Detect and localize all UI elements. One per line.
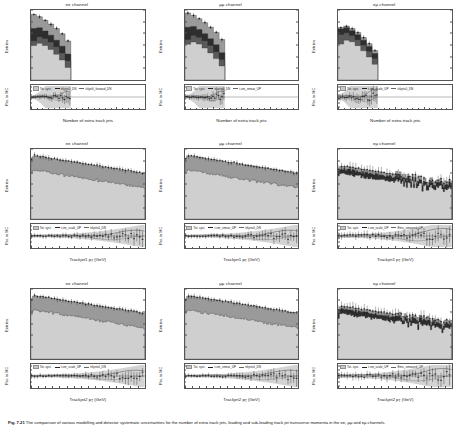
legend-item-variation: t-sm_smear_UP	[233, 87, 261, 91]
y-tick-mark	[185, 323, 187, 324]
y-tick-mark	[143, 323, 145, 324]
ratio-y-tick-mark	[185, 381, 186, 382]
ratio-y-tick-mark	[185, 230, 186, 231]
x-tick-mark-minor	[361, 108, 362, 109]
x-axis-label-text: Trackjet1 p	[223, 257, 245, 262]
legend-label-variation: t-sm_smear_UP	[214, 365, 236, 369]
y-tick-mark	[143, 172, 145, 173]
y-tick-mark	[338, 21, 340, 22]
y-tick-mark	[185, 56, 187, 57]
legend-label-variation: t-sm_smear_UP	[214, 226, 236, 230]
y-tick-mark	[338, 33, 340, 34]
ratio-legend: Tot. syst.t-sm_smear_UPtrkjets0_DN	[186, 365, 297, 370]
x-axis-label-text: Trackjet2 p	[70, 397, 92, 402]
x-tick-mark-minor	[284, 247, 285, 248]
y-tick-mark	[296, 68, 298, 69]
x-tick-mark-minor	[291, 386, 292, 387]
legend-item-variation: trkjets0_DN	[84, 226, 106, 230]
ratio-y-tick-mark	[31, 99, 32, 100]
y-tick-mark	[450, 207, 452, 208]
y-tick-mark	[143, 311, 145, 312]
x-tick-mark-minor	[31, 247, 32, 248]
ratio-point	[355, 233, 357, 241]
x-tick-mark-minor	[95, 247, 96, 248]
x-tick-mark-minor	[353, 247, 354, 248]
x-axis-label-unit: (GeV)	[93, 257, 106, 262]
x-tick-mark-minor	[367, 247, 368, 248]
y-tick-mark	[185, 160, 187, 161]
ratio-y-tick-mark	[185, 99, 186, 100]
y-tick-mark	[31, 311, 33, 312]
y-tick-mark	[31, 195, 33, 196]
legend-label-variation: trkjets0_DN	[61, 87, 77, 91]
x-tick-mark-minor	[202, 108, 203, 109]
y-tick-mark	[31, 207, 33, 208]
ratio-y-tick-mark	[185, 226, 186, 227]
ratio-y-tick-mark	[185, 91, 186, 92]
x-tick-mark-minor	[220, 386, 221, 387]
legend-label-variation: t-sm_scale_UP	[61, 365, 81, 369]
x-tick-mark-minor	[277, 247, 278, 248]
panel-title-text: ee channel	[66, 2, 88, 7]
plot-cell-njets-emu: eμ channelEntriesRat. to MC1011021031041…	[307, 0, 461, 139]
y-tick-mark	[185, 184, 187, 185]
y-tick-mark	[185, 346, 187, 347]
y-tick-mark	[143, 149, 145, 150]
histogram-pt1-mumu	[185, 149, 299, 219]
legend-swatch-line	[208, 227, 213, 228]
x-tick-mark-minor	[338, 386, 339, 387]
ratio-y-tick-mark	[185, 103, 186, 104]
x-tick-mark-minor	[350, 108, 351, 109]
x-tick-mark-minor	[116, 247, 117, 248]
panel-title: μμ channel	[154, 281, 308, 286]
main-plot-pt1-emu: 101102103104105106	[337, 148, 453, 220]
x-axis-label-text: Number of extra track jets	[63, 118, 113, 123]
histogram-pt1-ee	[31, 149, 145, 219]
main-plot-pt2-mumu: 101102103104105106	[184, 288, 300, 360]
x-tick-mark	[452, 246, 453, 248]
y-axis-label: Entries	[2, 157, 11, 213]
y-axis-label: Entries	[309, 157, 318, 213]
y-tick-mark	[338, 346, 340, 347]
x-tick-mark-minor	[102, 386, 103, 387]
plot-cell-pt2-ee: ee channelEntriesRat. to MC1011021031041…	[0, 279, 154, 418]
x-tick-mark-minor	[206, 386, 207, 387]
x-tick-mark-minor	[256, 386, 257, 387]
panel-title-text: ee channel	[66, 141, 88, 146]
x-tick-mark-minor	[256, 247, 257, 248]
x-tick-mark-minor	[431, 386, 432, 387]
x-tick-mark-minor	[88, 386, 89, 387]
x-axis-label: Number of extra track jets	[184, 118, 300, 123]
x-tick-mark-minor	[236, 108, 237, 109]
x-tick-mark-minor	[123, 247, 124, 248]
legend-swatch-line	[239, 227, 244, 228]
ratio-y-tick-mark	[31, 95, 32, 96]
legend-swatch-syst	[33, 365, 39, 370]
y-tick-mark	[338, 288, 340, 289]
figure-root: ee channelEntriesRat. to MC1011021031041…	[0, 0, 461, 439]
x-tick-mark-minor	[284, 386, 285, 387]
panel-title: ee channel	[0, 281, 154, 286]
x-tick-mark-minor	[270, 386, 271, 387]
ratio-y-tick-mark	[31, 91, 32, 92]
x-axis-label: Trackjet1 pT (GeV)	[30, 257, 146, 263]
x-tick-mark-minor	[372, 108, 373, 109]
y-tick-mark	[338, 207, 340, 208]
y-tick-mark	[185, 300, 187, 301]
y-tick-mark	[450, 288, 452, 289]
legend-label-syst: Tot. syst.	[40, 365, 52, 369]
x-tick-mark-minor	[48, 108, 49, 109]
y-tick-mark	[31, 288, 33, 289]
ratio-y-tick-mark	[31, 381, 32, 382]
x-tick-mark	[298, 107, 299, 109]
ratio-legend: Tot. syst.trkjets0_DNt-sm_smear_UP	[186, 86, 297, 91]
y-tick-mark	[185, 288, 187, 289]
y-axis-label: Entries	[2, 18, 11, 74]
x-tick-mark-minor	[185, 108, 186, 109]
y-axis-label-ratio: Rat. to MC	[2, 84, 11, 110]
x-tick-mark-minor	[281, 108, 282, 109]
histogram-pt2-emu	[338, 289, 452, 359]
x-tick-mark-minor	[277, 386, 278, 387]
y-tick-mark	[143, 288, 145, 289]
y-tick-mark	[338, 311, 340, 312]
